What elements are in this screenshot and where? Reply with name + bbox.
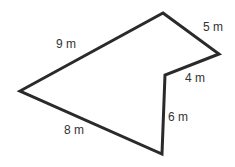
side-label-6m: 6 m — [168, 110, 188, 124]
side-label-4m: 4 m — [185, 71, 205, 85]
side-label-5m: 5 m — [203, 20, 223, 34]
side-label-9m: 9 m — [56, 37, 76, 51]
side-label-8m: 8 m — [64, 123, 84, 137]
polygon-diagram: 5 m 4 m 6 m 8 m 9 m — [0, 0, 235, 167]
